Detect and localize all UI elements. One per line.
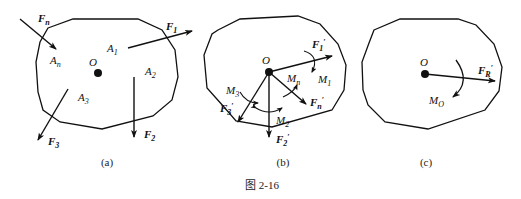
panel-label-b: (b): [277, 156, 290, 169]
force-f1-prime-arrow: [269, 56, 332, 72]
label-m1: M1: [317, 73, 331, 88]
force-f3-prime-arrow: [238, 72, 269, 122]
label-f1-prime: F1′: [311, 38, 326, 53]
label-f3: F3: [47, 135, 59, 150]
panel-c: O FR′ MO (c): [362, 19, 502, 169]
label-m3: M3: [225, 84, 239, 99]
force-reduction-figure: O F1 A1 F2 A2 F3 A3 Fn An (a) O F1′ M1: [0, 0, 521, 199]
moment-mo-arc: [453, 60, 463, 97]
label-mn: Mn: [286, 72, 300, 87]
label-o-c: O: [420, 56, 428, 68]
force-f1-arrow: [128, 31, 192, 48]
force-f3-arrow: [38, 89, 68, 140]
panel-a: O F1 A1 F2 A2 F3 A3 Fn An (a): [20, 12, 192, 169]
label-o-b: O: [262, 54, 270, 66]
panel-label-a: (a): [101, 156, 114, 169]
label-an: An: [49, 54, 61, 69]
label-f1: F1: [165, 20, 177, 35]
label-mo: MO: [428, 94, 444, 109]
label-f2: F2: [143, 128, 155, 143]
figure-caption: 图 2-16: [245, 179, 279, 191]
label-fr-prime: FR′: [477, 64, 493, 79]
point-o-a: [94, 69, 102, 77]
label-fn-prime: Fn′: [309, 96, 324, 111]
rigid-body-outline-a: [36, 19, 178, 129]
label-a1: A1: [106, 42, 118, 57]
label-o-a: O: [89, 56, 97, 68]
label-fn: Fn: [37, 12, 50, 27]
panel-b: O F1′ M1 Fn′ Mn F2′ M2 F3′ M3 (b): [204, 16, 346, 169]
label-a2: A2: [144, 65, 156, 80]
label-m2: M2: [275, 114, 289, 129]
panel-label-c: (c): [420, 156, 433, 169]
label-f2-prime: F2′: [275, 133, 290, 148]
label-a3: A3: [77, 91, 89, 106]
